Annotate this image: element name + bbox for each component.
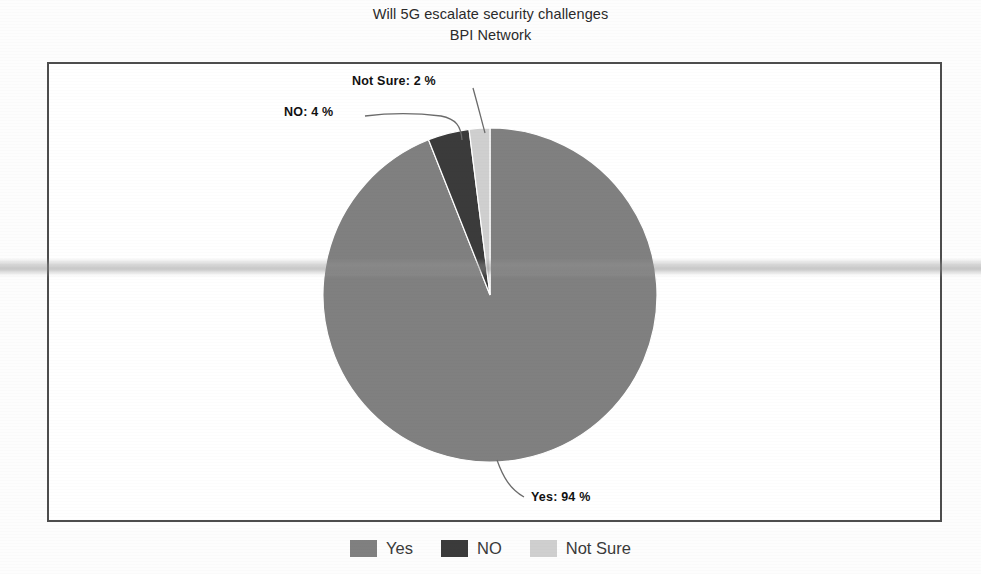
slice-label-yes: Yes: 94 % bbox=[531, 490, 590, 504]
chart-legend: Yes NO Not Sure bbox=[0, 538, 981, 558]
legend-label-yes: Yes bbox=[386, 538, 413, 558]
legend-swatch-yes bbox=[350, 540, 377, 557]
legend-item-not-sure[interactable]: Not Sure bbox=[530, 538, 631, 558]
legend-swatch-no bbox=[441, 540, 468, 557]
leader-line-yes bbox=[497, 460, 524, 497]
leader-line-not-sure bbox=[473, 88, 485, 133]
legend-swatch-not-sure bbox=[530, 540, 557, 557]
slice-label-no: NO: 4 % bbox=[284, 105, 333, 119]
slice-label-not-sure: Not Sure: 2 % bbox=[352, 74, 436, 88]
legend-label-not-sure: Not Sure bbox=[566, 538, 631, 558]
legend-item-yes[interactable]: Yes bbox=[350, 538, 413, 558]
legend-item-no[interactable]: NO bbox=[441, 538, 502, 558]
pie-chart bbox=[0, 0, 981, 574]
legend-label-no: NO bbox=[477, 538, 502, 558]
